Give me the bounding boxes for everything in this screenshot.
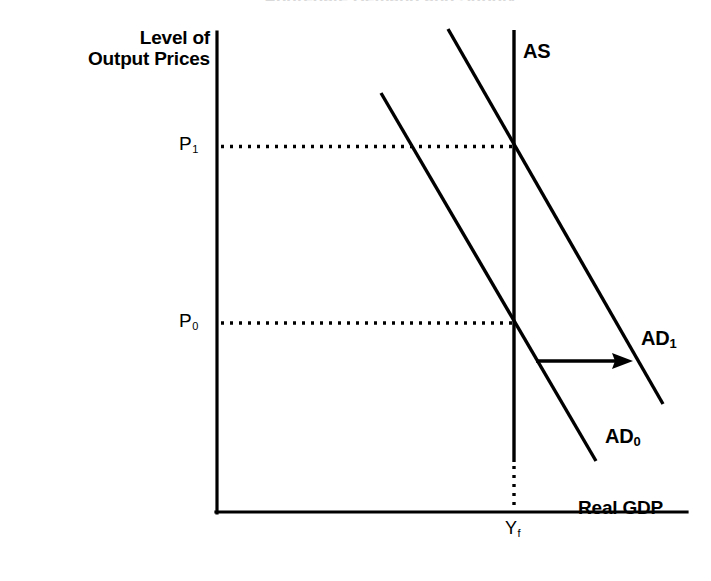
curve-label-ad0-base: AD [605,425,634,447]
curve-label-as-base: AS [523,40,550,62]
y-axis-title-line2: Output Prices [40,48,210,69]
y-tick-p1-subscript: 1 [192,143,198,155]
y-tick-p0-base: P [179,310,192,331]
x-axis-title: Real GDP [578,497,663,518]
curve-label-ad0-subscript: 0 [634,434,641,449]
curve-label-ad1: AD1 [641,327,677,349]
x-tick-yf-subscript: f [518,527,521,539]
ad-as-diagram: Aggregate Demand and Supply Level of Out… [0,0,711,581]
curve-label-ad0: AD0 [605,425,641,447]
x-tick-label-yf: Yf [505,518,520,538]
curve-label-as: AS [523,40,550,62]
curve-label-ad1-base: AD [641,327,670,349]
y-axis-title-line1: Level of [40,27,210,48]
y-tick-p0-subscript: 0 [192,320,198,332]
y-tick-p1-base: P [179,133,192,154]
y-tick-label-p1: P1 [179,133,198,154]
y-tick-label-p0: P0 [179,310,198,331]
shift-arrow-icon [536,353,633,369]
curve-label-ad1-subscript: 1 [670,336,677,351]
y-axis-title: Level of Output Prices [40,27,210,70]
ad0-curve [381,93,596,461]
ad1-curve [448,29,663,404]
x-tick-yf-base: Y [505,518,517,538]
chart-canvas [0,0,711,581]
